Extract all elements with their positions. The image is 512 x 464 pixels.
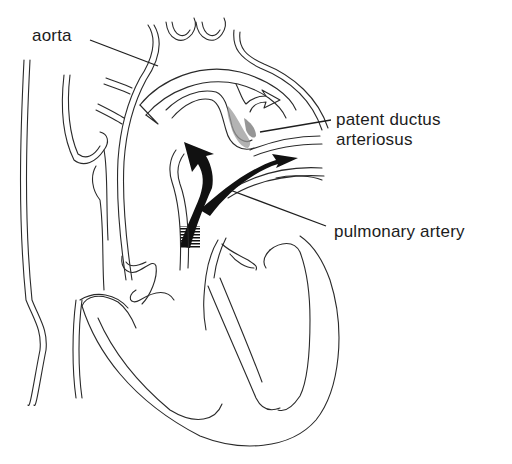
arrow-hatch: [180, 226, 200, 248]
body-wall-outline: [21, 60, 47, 406]
aortic-flow-arrow-icon: [236, 84, 280, 112]
pulmonary-artery-leader-line: [230, 190, 326, 226]
left-vessel-branches: [96, 78, 132, 124]
heart-chambers-outline: [73, 236, 339, 446]
pulmonary-flow-arrows-icon: [180, 142, 298, 248]
label-patent-ductus-line1: patent ductus: [336, 110, 441, 130]
label-pulmonary-artery: pulmonary artery: [334, 222, 465, 242]
vena-cava-outline: [62, 75, 108, 290]
aortic-arch-outline: [117, 18, 328, 280]
label-patent-ductus-line2: arteriosus: [336, 130, 413, 150]
aorta-leader-line: [90, 40, 158, 66]
label-aorta: aorta: [32, 26, 72, 46]
